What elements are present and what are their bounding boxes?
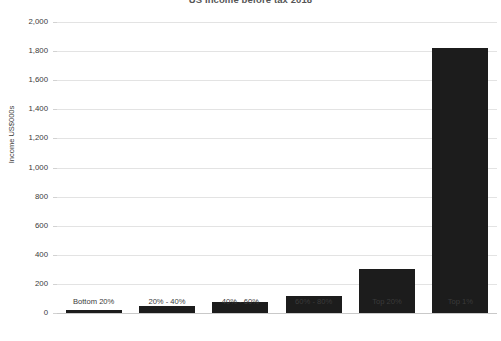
y-axis-tick-label: 1,200 xyxy=(4,133,48,142)
y-axis-tick-label: 600 xyxy=(4,221,48,230)
y-axis-tick-label: 1,000 xyxy=(4,163,48,172)
y-axis-tick-label: 800 xyxy=(4,192,48,201)
gridline xyxy=(57,197,497,198)
y-axis-tick-mark xyxy=(53,80,57,81)
bar[interactable] xyxy=(139,306,195,313)
gridline xyxy=(57,80,497,81)
x-axis-tick-label: 60% - 80% xyxy=(277,297,350,306)
plot-area: 02004006008001,0001,2001,4001,6001,8002,… xyxy=(57,22,497,313)
x-axis-tick-label: Top 1% xyxy=(424,297,497,306)
y-axis-tick-mark xyxy=(53,22,57,23)
y-axis-tick-mark xyxy=(53,138,57,139)
gridline xyxy=(57,313,497,314)
y-axis-tick-label: 400 xyxy=(4,250,48,259)
gridline xyxy=(57,51,497,52)
gridline xyxy=(57,109,497,110)
y-axis-tick-label: 1,600 xyxy=(4,75,48,84)
y-axis-tick-mark xyxy=(53,226,57,227)
gridline xyxy=(57,226,497,227)
bar[interactable] xyxy=(432,48,488,313)
gridline xyxy=(57,284,497,285)
gridline xyxy=(57,22,497,23)
gridline xyxy=(57,138,497,139)
x-axis-tick-label: Top 20% xyxy=(350,297,423,306)
y-axis-tick-label: 200 xyxy=(4,279,48,288)
y-axis-tick-mark xyxy=(53,255,57,256)
y-axis-tick-mark xyxy=(53,197,57,198)
y-axis-tick-label: 1,800 xyxy=(4,46,48,55)
gridline xyxy=(57,168,497,169)
y-axis-tick-mark xyxy=(53,168,57,169)
gridline xyxy=(57,255,497,256)
y-axis-tick-mark xyxy=(53,51,57,52)
bar-chart: US Income before tax 2018 Income US$000s… xyxy=(0,0,501,341)
chart-title: US Income before tax 2018 xyxy=(0,0,501,3)
bar[interactable] xyxy=(359,269,415,313)
y-axis-tick-mark xyxy=(53,313,57,314)
y-axis-tick-label: 0 xyxy=(4,308,48,317)
x-axis-tick-label: 20% - 40% xyxy=(130,297,203,306)
y-axis-tick-mark xyxy=(53,284,57,285)
x-axis-tick-label: Bottom 20% xyxy=(57,297,130,306)
y-axis-tick-mark xyxy=(53,109,57,110)
bar[interactable] xyxy=(66,310,122,313)
y-axis-tick-label: 2,000 xyxy=(4,17,48,26)
y-axis-tick-label: 1,400 xyxy=(4,104,48,113)
x-axis-tick-label: 40% - 60% xyxy=(204,297,277,306)
